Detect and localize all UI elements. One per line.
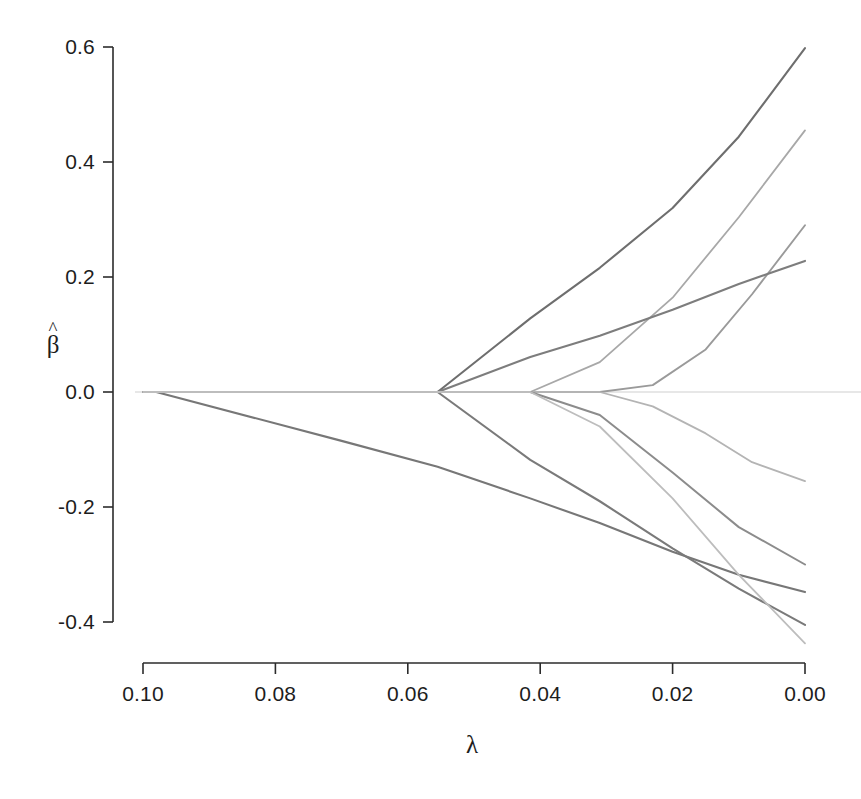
coefficient-path-plot [0, 0, 861, 799]
y-tick-label: 0.4 [0, 150, 95, 174]
y-tick-label: 0.6 [0, 35, 95, 59]
chart-figure: 0.60.40.20.0-0.2-0.4 0.100.080.060.040.0… [0, 0, 861, 799]
y-axis-title: ^ β [30, 331, 76, 359]
plot-background [0, 0, 861, 799]
x-tick-label: 0.08 [255, 682, 297, 706]
x-tick-label: 0.02 [652, 682, 694, 706]
x-tick-label: 0.04 [519, 682, 561, 706]
x-tick-label: 0.00 [784, 682, 826, 706]
y-tick-label: -0.4 [0, 610, 95, 634]
x-tick-label: 0.10 [122, 682, 164, 706]
x-axis-title: λ [452, 731, 492, 759]
y-tick-label: 0.0 [0, 380, 95, 404]
y-tick-label: -0.2 [0, 495, 95, 519]
x-tick-label: 0.06 [387, 682, 429, 706]
hat-accent: ^ [49, 319, 58, 338]
beta-hat-glyph: ^ β [47, 332, 60, 357]
y-tick-label: 0.2 [0, 265, 95, 289]
